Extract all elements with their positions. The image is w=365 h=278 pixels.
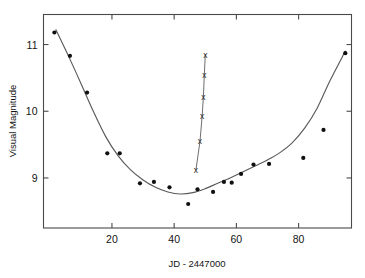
data-point <box>105 151 109 155</box>
data-point <box>321 128 325 132</box>
data-point <box>343 51 347 55</box>
cross-data-point: x <box>198 136 203 146</box>
data-point <box>301 156 305 160</box>
data-point <box>52 30 56 34</box>
data-point <box>152 180 156 184</box>
cross-markers: xxxxxx <box>194 50 208 175</box>
cross-data-point: x <box>200 111 205 121</box>
y-tick-label: 11 <box>27 39 38 51</box>
chart-canvas: 20406080 91011 xxxxxx JD - 2447000 Visua… <box>0 0 365 278</box>
cross-data-point: x <box>201 92 206 102</box>
data-point <box>118 151 122 155</box>
axes-frame <box>44 15 352 229</box>
y-tick-label: 9 <box>32 172 38 184</box>
data-point <box>138 181 142 185</box>
data-point <box>251 163 255 167</box>
cross-data-point: x <box>202 70 207 80</box>
x-tick-label: 80 <box>293 233 305 245</box>
data-point <box>222 180 226 184</box>
data-point <box>195 187 199 191</box>
y-axis-label: Visual Magnitude <box>7 85 18 158</box>
data-point <box>85 90 89 94</box>
y-tick-label: 10 <box>26 105 38 117</box>
x-axis-label: JD - 2447000 <box>168 258 225 269</box>
data-point <box>68 54 72 58</box>
data-point <box>186 202 190 206</box>
data-point <box>211 190 215 194</box>
data-point <box>267 162 271 166</box>
cross-data-point: x <box>203 50 208 60</box>
data-point <box>167 185 171 189</box>
x-tick-label: 60 <box>231 233 243 245</box>
x-tick-label: 40 <box>168 233 180 245</box>
data-point <box>239 172 243 176</box>
data-point <box>230 181 234 185</box>
plot-frame <box>44 15 352 229</box>
cross-data-point: x <box>194 165 199 175</box>
x-tick-label: 20 <box>106 233 118 245</box>
light-curve-figure: 20406080 91011 xxxxxx JD - 2447000 Visua… <box>0 0 365 278</box>
y-axis-ticks: 91011 <box>26 39 352 184</box>
